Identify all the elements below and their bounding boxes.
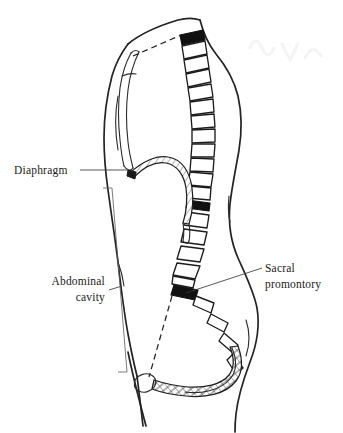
- label-sacral-promontory-line2: promontory: [265, 278, 321, 291]
- label-sacral-promontory-line1: Sacral: [265, 262, 295, 274]
- thoracic-inlet-dashline: [133, 35, 181, 56]
- pelvic-inlet-dashline: [149, 296, 172, 377]
- reference-planes: [133, 35, 181, 377]
- label-diaphragm: Diaphragm: [14, 164, 68, 177]
- sagittal-torso-diagram: Diaphragm Abdominal cavity Sacral promon…: [0, 0, 343, 433]
- sacrum-coccyx: [152, 296, 243, 396]
- label-abdominal-cavity-line2: cavity: [76, 291, 105, 304]
- label-abdominal-cavity-line1: Abdominal: [51, 275, 105, 287]
- diaphragm-structure: [127, 157, 193, 244]
- anatomy-figure: Diaphragm Abdominal cavity Sacral promon…: [0, 0, 343, 433]
- labels-group: Diaphragm Abdominal cavity Sacral promon…: [14, 164, 321, 304]
- scan-watermark: [250, 41, 321, 60]
- sternum: [116, 51, 139, 170]
